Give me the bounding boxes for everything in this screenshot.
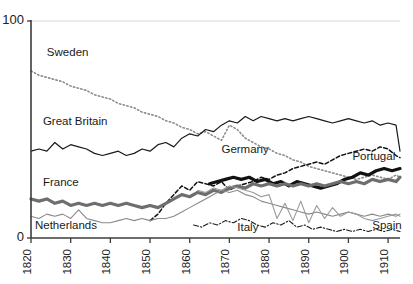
series-label-spain: Spain xyxy=(372,219,401,231)
x-tick-label-1860: 1860 xyxy=(180,249,192,275)
x-tick-label-1820: 1820 xyxy=(21,249,33,275)
series-label-portugal: Portugal xyxy=(352,150,395,162)
x-tick-label-1910: 1910 xyxy=(378,249,390,275)
x-tick-label-1900: 1900 xyxy=(338,249,350,275)
series-line-italy xyxy=(194,218,400,231)
x-tick-label-1840: 1840 xyxy=(100,249,112,275)
x-tick-label-1880: 1880 xyxy=(259,249,271,275)
y-tick-label-0: 0 xyxy=(17,229,24,244)
x-tick-label-1850: 1850 xyxy=(140,249,152,275)
x-axis-tick-labels: 1820183018401850186018701880189019001910 xyxy=(21,249,390,275)
series-label-france: France xyxy=(43,176,79,188)
x-tick-label-1890: 1890 xyxy=(299,249,311,275)
y-axis-tick-labels: 0100 xyxy=(2,12,24,244)
x-tick-label-1870: 1870 xyxy=(219,249,231,275)
series-label-italy: Italy xyxy=(237,221,258,233)
series-label-germany: Germany xyxy=(221,143,269,155)
series-lines xyxy=(31,71,400,232)
chart-container: 1820183018401850186018701880189019001910… xyxy=(0,0,413,284)
x-tick-label-1830: 1830 xyxy=(61,249,73,275)
line-chart: 1820183018401850186018701880189019001910… xyxy=(0,0,413,284)
y-tick-label-100: 100 xyxy=(2,12,24,27)
series-label-great-britain: Great Britain xyxy=(43,115,108,127)
series-line-spain xyxy=(198,186,400,223)
series-label-netherlands: Netherlands xyxy=(35,219,97,231)
series-label-sweden: Sweden xyxy=(47,46,89,58)
